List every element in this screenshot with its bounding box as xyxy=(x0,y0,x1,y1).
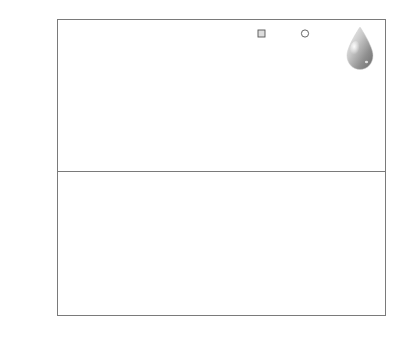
chart-page xyxy=(0,0,418,356)
acid-rain-figure xyxy=(0,0,418,356)
legend-nox-square-marker xyxy=(258,30,265,37)
